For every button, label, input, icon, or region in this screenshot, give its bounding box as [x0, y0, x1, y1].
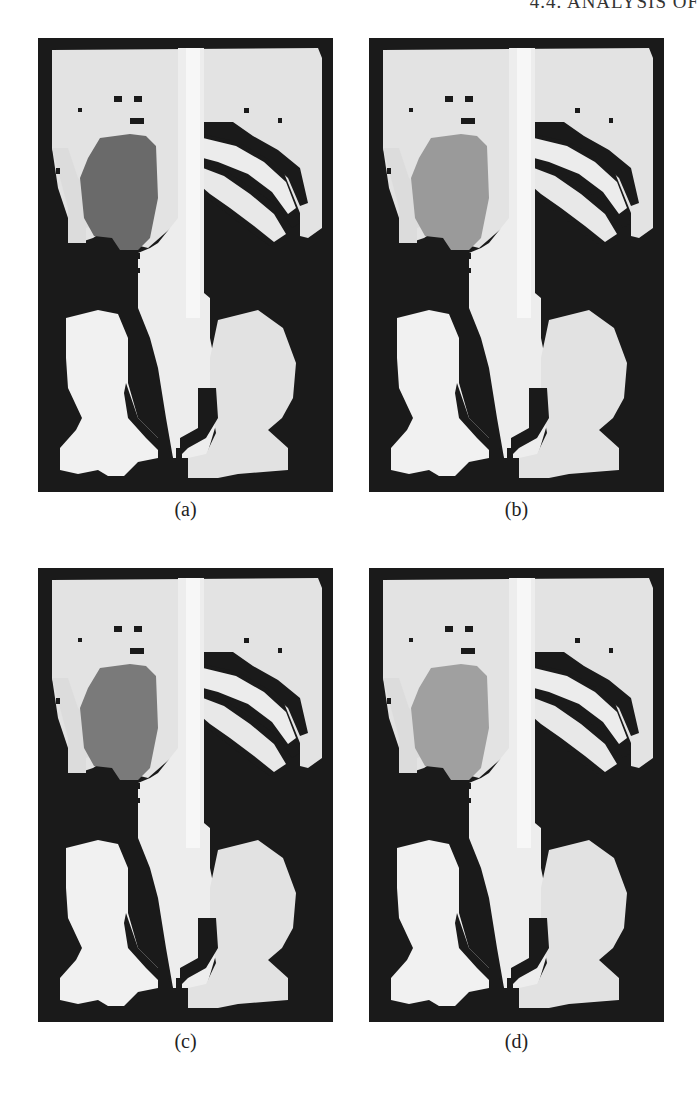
figure-panel-b	[369, 38, 664, 492]
rendered-torso-image	[38, 568, 333, 1022]
rendered-torso-image	[38, 38, 333, 492]
rendered-torso-image	[369, 568, 664, 1022]
figure-panel-c	[38, 568, 333, 1022]
rendered-torso-image	[369, 38, 664, 492]
figure-panel-a	[38, 38, 333, 492]
panel-caption-d: (d)	[369, 1030, 664, 1053]
panel-caption-a: (a)	[38, 498, 333, 521]
running-header: 4.4. ANALYSIS OF	[530, 0, 699, 13]
figure-panel-d	[369, 568, 664, 1022]
panel-caption-b: (b)	[369, 498, 664, 521]
panel-caption-c: (c)	[38, 1030, 333, 1053]
